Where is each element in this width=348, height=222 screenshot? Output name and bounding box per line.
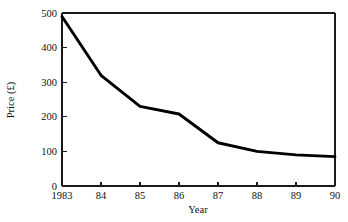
price-series-line xyxy=(62,16,335,156)
x-tick-label: 86 xyxy=(174,190,185,201)
x-tick-label: 90 xyxy=(330,190,341,201)
y-tick-label: 100 xyxy=(41,146,57,157)
y-axis-title: Price (£) xyxy=(5,81,17,118)
y-tick-label: 300 xyxy=(41,77,57,88)
x-tick-label: 84 xyxy=(96,190,107,201)
chart-canvas: 0100200300400500 198384858687888990 Year… xyxy=(0,0,348,222)
x-tick-label: 88 xyxy=(252,190,263,201)
x-tick-label: 87 xyxy=(213,190,224,201)
x-tick-label: 85 xyxy=(135,190,146,201)
x-axis-ticks xyxy=(62,182,335,187)
y-axis-tick-labels: 0100200300400500 xyxy=(41,8,57,192)
y-tick-label: 500 xyxy=(41,8,57,19)
y-tick-label: 200 xyxy=(41,111,57,122)
y-tick-label: 400 xyxy=(41,42,57,53)
line-chart: 0100200300400500 198384858687888990 Year… xyxy=(0,0,348,222)
x-axis-title: Year xyxy=(188,204,208,215)
y-axis-ticks xyxy=(62,13,67,186)
x-tick-label: 89 xyxy=(291,190,302,201)
x-axis-tick-labels: 198384858687888990 xyxy=(52,190,341,201)
x-tick-label: 1983 xyxy=(52,190,73,201)
